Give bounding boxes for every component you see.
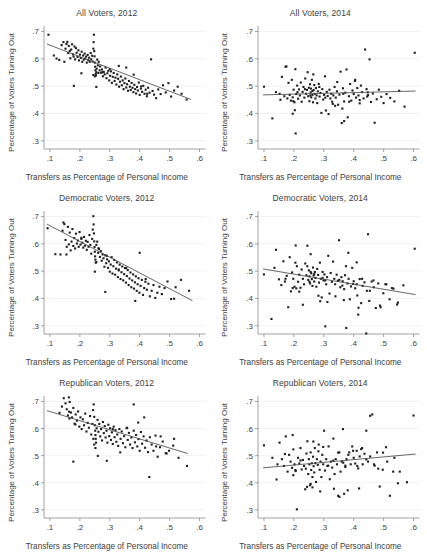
panel-republican-voters-2012: Republican Voters, 2012 Percentage of Vo… [0,370,214,554]
x-tick-label: .3 [320,339,327,348]
panel-all-voters-2012: All Voters, 2012 Percentage of Voters Tu… [0,0,214,185]
plot-area: .3.4.5.6.7.1.2.3.4.5.6 [0,0,214,185]
scatter-points [59,396,189,478]
x-tick-label: .2 [77,523,84,532]
scatter-points [262,413,414,510]
x-tick-label: .2 [290,523,297,532]
y-tick-label: .3 [246,137,253,146]
x-axis-label: Transfers as Percentage of Personal Inco… [214,542,427,551]
plot-area: .3.4.5.6.7.1.2.3.4.5.6 [0,185,214,370]
voter-turnout-scatter-figure: All Voters, 2012 Percentage of Voters Tu… [0,0,427,554]
y-tick-label: .3 [32,322,39,331]
x-axis-label: Transfers as Percentage of Personal Inco… [214,173,427,182]
y-tick-label: .3 [32,137,39,146]
x-tick-label: .2 [290,154,297,163]
x-tick-label: .6 [410,523,417,532]
x-tick-label: .4 [136,339,143,348]
y-tick-label: .7 [32,397,39,406]
x-tick-label: .3 [106,523,113,532]
x-tick-label: .1 [47,154,54,163]
x-tick-label: .3 [320,523,327,532]
x-tick-label: .5 [166,154,173,163]
x-tick-label: .2 [77,339,84,348]
y-tick-label: .3 [246,322,253,331]
plot-area: .3.4.5.6.7.1.2.3.4.5.6 [214,0,427,185]
x-tick-label: .1 [47,339,54,348]
y-tick-label: .7 [246,27,253,36]
y-tick-label: .7 [32,212,39,221]
x-tick-label: .4 [136,154,143,163]
y-tick-label: .4 [246,294,253,303]
plot-area: .3.4.5.6.7.1.2.3.4.5.6 [214,370,427,554]
x-tick-label: .5 [166,339,173,348]
x-tick-label: .1 [47,523,54,532]
x-tick-label: .4 [350,523,357,532]
x-tick-label: .1 [260,339,267,348]
y-tick-label: .7 [246,397,253,406]
y-tick-label: .6 [246,425,253,434]
regression-fit-line [47,411,188,454]
plot-area: .3.4.5.6.7.1.2.3.4.5.6 [0,370,214,554]
y-tick-label: .5 [32,452,39,461]
y-tick-label: .7 [246,212,253,221]
y-tick-label: .6 [32,425,39,434]
y-tick-label: .5 [246,452,253,461]
y-tick-label: .3 [246,506,253,515]
x-tick-label: .4 [350,154,357,163]
panel-republican-voters-2014: Republican Voters, 2014 Percentage of Vo… [214,370,427,554]
y-tick-label: .6 [246,55,253,64]
panel-all-voters-2014: All Voters, 2014 Percentage of Voters Tu… [214,0,427,185]
x-tick-label: .5 [380,523,387,532]
y-tick-label: .5 [246,82,253,91]
x-tick-label: .4 [136,523,143,532]
x-axis-label: Transfers as Percentage of Personal Inco… [0,542,214,551]
x-tick-label: .4 [350,339,357,348]
x-tick-label: .3 [106,339,113,348]
x-tick-label: .3 [320,154,327,163]
y-tick-label: .4 [32,109,39,118]
scatter-points [262,233,415,334]
y-tick-label: .6 [32,55,39,64]
x-axis-label: Transfers as Percentage of Personal Inco… [214,358,427,367]
x-tick-label: .1 [260,154,267,163]
y-tick-label: .5 [32,267,39,276]
x-tick-label: .3 [106,154,113,163]
x-tick-label: .5 [166,523,173,532]
y-tick-label: .7 [32,27,39,36]
y-tick-label: .6 [32,240,39,249]
regression-fit-line [263,454,416,468]
x-tick-label: .5 [380,339,387,348]
regression-fit-line [47,44,191,99]
y-tick-label: .5 [246,267,253,276]
y-tick-label: .4 [246,109,253,118]
x-tick-label: .5 [380,154,387,163]
x-axis-label: Transfers as Percentage of Personal Inco… [0,358,214,367]
x-tick-label: .6 [196,339,203,348]
x-tick-label: .6 [196,154,203,163]
x-tick-label: .6 [410,339,417,348]
panel-democratic-voters-2012: Democratic Voters, 2012 Percentage of Vo… [0,185,214,370]
y-tick-label: .4 [32,479,39,488]
regression-fit-line [47,224,192,301]
x-tick-label: .6 [410,154,417,163]
x-axis-label: Transfers as Percentage of Personal Inco… [0,173,214,182]
y-tick-label: .6 [246,240,253,249]
x-tick-label: .2 [290,339,297,348]
plot-area: .3.4.5.6.7.1.2.3.4.5.6 [214,185,427,370]
x-tick-label: .2 [77,154,84,163]
x-tick-label: .6 [196,523,203,532]
scatter-points [47,215,191,302]
y-tick-label: .4 [32,294,39,303]
y-tick-label: .5 [32,82,39,91]
panel-democratic-voters-2014: Democratic Voters, 2014 Percentage of Vo… [214,185,427,370]
y-tick-label: .4 [246,479,253,488]
y-tick-label: .3 [32,506,39,515]
x-tick-label: .1 [260,523,267,532]
